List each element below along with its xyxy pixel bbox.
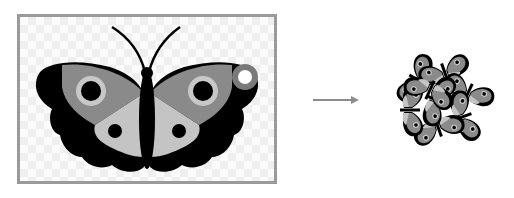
arrow-right-icon: [313, 95, 361, 105]
butterfly-head: [141, 67, 153, 79]
left-dot: [108, 124, 122, 138]
right-dot: [172, 124, 186, 138]
right-eye-spot: [193, 81, 213, 101]
antenna-left: [112, 27, 145, 72]
source-image-frame: [17, 14, 277, 184]
left-eye-spot: [81, 81, 101, 101]
butterfly-icon: [20, 17, 274, 181]
rotated-butterflies-cluster: [380, 45, 500, 155]
butterfly-body: [139, 69, 155, 169]
antenna-right: [149, 27, 180, 72]
rotation-handle-hole: [238, 70, 252, 84]
